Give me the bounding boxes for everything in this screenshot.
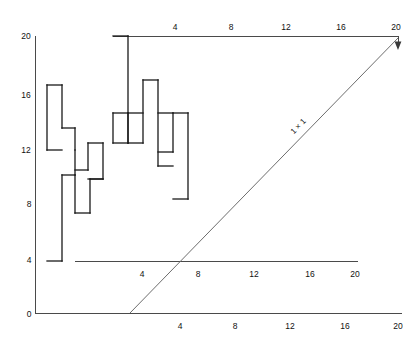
y-tick-16: 16 <box>21 90 31 100</box>
x-top-tick-8: 8 <box>229 22 234 32</box>
x-top-tick-16: 16 <box>336 22 346 32</box>
x-axis-top-tick-labels: 4 8 12 16 20 <box>173 22 401 32</box>
x-bottom-tick-16: 16 <box>340 321 350 331</box>
y-tick-0: 0 <box>27 309 32 319</box>
y-tick-8: 8 <box>27 199 32 209</box>
x-bottom-tick-12: 12 <box>285 321 295 331</box>
dendrogram-figure: 1 × 1 <box>0 0 418 343</box>
y-tick-4: 4 <box>27 255 32 265</box>
x-middle-tick-20: 20 <box>350 269 360 279</box>
x-middle-tick-16: 16 <box>305 269 315 279</box>
x-top-tick-4: 4 <box>173 22 178 32</box>
x-top-tick-12: 12 <box>281 22 291 32</box>
x-bottom-tick-20: 20 <box>393 321 403 331</box>
x-middle-tick-4: 4 <box>140 269 145 279</box>
x-axis-bottom-tick-labels: 4 8 12 16 20 <box>178 321 403 331</box>
y-tick-20: 20 <box>21 31 31 41</box>
x-axis-middle-tick-labels: 4 8 12 16 20 <box>140 269 360 279</box>
y-axis-tick-labels: 20 16 12 8 4 0 <box>21 31 31 319</box>
x-middle-tick-8: 8 <box>196 269 201 279</box>
x-middle-tick-12: 12 <box>249 269 259 279</box>
axis-group <box>35 36 402 313</box>
y-tick-12: 12 <box>21 145 31 155</box>
down-arrow-icon <box>395 42 402 51</box>
x-bottom-tick-4: 4 <box>178 321 183 331</box>
diagonal-reference-group: 1 × 1 <box>130 36 401 313</box>
x-bottom-tick-8: 8 <box>233 321 238 331</box>
dendrogram-tree <box>47 36 188 261</box>
x-top-tick-20: 20 <box>391 22 401 32</box>
